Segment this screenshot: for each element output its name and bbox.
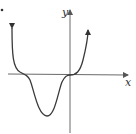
y-axis-label: y [61,6,69,19]
function-curve [12,28,88,116]
x-axis-label: x [125,76,132,89]
bullet-marker [1,9,4,12]
graph-figure: y x [0,0,136,134]
